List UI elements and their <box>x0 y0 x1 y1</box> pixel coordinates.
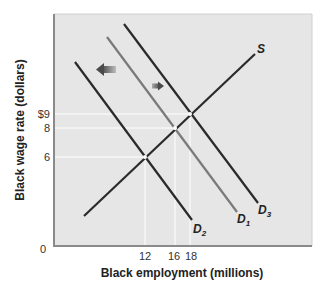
y-tick-9: $9 <box>38 108 50 120</box>
x-tick-16: 16 <box>168 250 180 262</box>
y-tick-8: 8 <box>44 122 50 134</box>
x-tick-12: 12 <box>139 250 151 262</box>
label-supply: S <box>257 42 265 56</box>
equilibrium-point-d2 <box>143 155 147 159</box>
chart: S D2 D1 D3 $9 8 6 0 12 16 18 Black emplo… <box>0 0 327 283</box>
y-tick-6: 6 <box>44 151 50 163</box>
equilibrium-point-d1 <box>173 126 177 130</box>
origin-label: 0 <box>40 243 46 255</box>
equilibrium-point-d3 <box>188 112 192 116</box>
y-axis-title: Black wage rate (dollars) <box>13 59 27 200</box>
plot-area <box>54 14 312 246</box>
x-tick-18: 18 <box>185 250 197 262</box>
x-axis-title: Black employment (millions) <box>101 266 264 280</box>
